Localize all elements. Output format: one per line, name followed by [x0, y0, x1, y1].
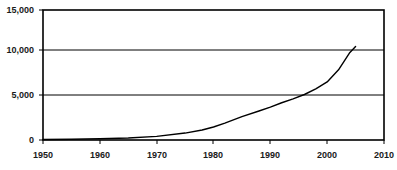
y-axis-label-15000: 15,000 [0, 5, 34, 15]
x-axis-label-1980: 1980 [193, 150, 233, 160]
line-chart: 15,000 10,000 5,000 0 1950 1960 1970 198… [0, 0, 397, 170]
x-axis-label-2010: 2010 [364, 150, 397, 160]
chart-canvas [0, 0, 397, 170]
x-axis-label-2000: 2000 [307, 150, 347, 160]
y-axis-label-5000: 5,000 [0, 90, 34, 100]
x-axis-label-1960: 1960 [80, 150, 120, 160]
x-axis-label-1990: 1990 [250, 150, 290, 160]
y-axis-label-10000: 10,000 [0, 45, 34, 55]
chart-background [0, 0, 397, 170]
x-axis-label-1950: 1950 [23, 150, 63, 160]
y-axis-label-0: 0 [0, 135, 34, 145]
x-axis-label-1970: 1970 [137, 150, 177, 160]
